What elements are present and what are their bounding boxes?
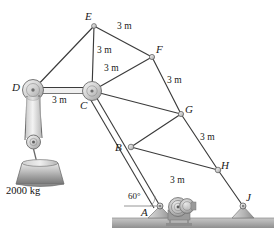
member-C-G xyxy=(92,91,181,114)
dimension-label-E-C: 3 m xyxy=(97,46,112,56)
joint-C-collar xyxy=(83,82,102,101)
node-label-F: F xyxy=(156,44,163,55)
mass-label: 2000 kg xyxy=(6,186,40,197)
member-C-F xyxy=(92,57,152,91)
member-H-J xyxy=(218,170,243,206)
dimension-label-E-F: 3 m xyxy=(117,22,132,32)
dimension-label-G-H: 3 m xyxy=(200,133,215,143)
node-label-H: H xyxy=(221,160,229,171)
node-label-B: B xyxy=(115,142,122,153)
mass-block-top xyxy=(22,160,58,167)
member-F-G xyxy=(152,57,181,114)
dimension-label-F-G: 3 m xyxy=(167,76,182,86)
joint-H xyxy=(215,167,221,173)
angle-label-60deg: 60° xyxy=(128,192,141,201)
truss-members xyxy=(33,26,243,206)
dimension-label-B-H: 3 m xyxy=(170,176,185,186)
dimension-label-C-F: 3 m xyxy=(104,64,119,74)
member-B-G xyxy=(131,114,181,147)
node-label-A: A xyxy=(141,207,148,218)
joint-B xyxy=(128,144,134,150)
support-J xyxy=(232,203,254,218)
dimension-label-D-C: 3 m xyxy=(52,96,67,106)
member-E-D xyxy=(33,26,94,90)
node-label-E: E xyxy=(85,11,92,22)
joint-F xyxy=(149,54,154,59)
joint-G xyxy=(178,111,183,116)
truss-diagram-svg xyxy=(0,0,274,248)
ground-strip xyxy=(112,218,274,228)
node-label-C: C xyxy=(80,100,87,111)
joint-E xyxy=(92,24,97,29)
node-label-G: G xyxy=(185,104,193,115)
figure-canvas: E F D C G B H A J 3 m 3 m 3 m 3 m 3 m 3 … xyxy=(0,0,274,248)
node-label-J: J xyxy=(246,192,251,203)
load-assembly xyxy=(16,95,64,187)
node-label-D: D xyxy=(12,82,20,93)
